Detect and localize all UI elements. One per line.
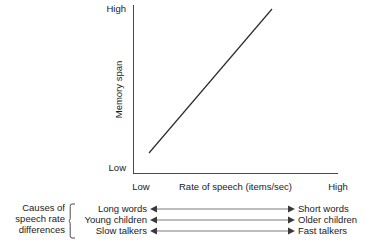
causes-row-2-right-label: Older children	[298, 214, 374, 225]
causes-row-3-left-label: Slow talkers	[74, 225, 147, 236]
causes-row-1-left-label: Long words	[74, 203, 147, 214]
figure-container: High Low Memory span Low Rate of speech …	[0, 0, 374, 247]
trend-line	[149, 9, 272, 153]
x-axis-low-tick-label: Low	[127, 181, 155, 192]
causes-row-2-left-label: Young children	[74, 214, 147, 225]
x-axis-title: Rate of speech (items/sec)	[163, 181, 308, 192]
trend-line-graphic	[0, 0, 374, 180]
causes-row-1-right-label: Short words	[298, 203, 374, 214]
x-axis-high-tick-label: High	[324, 181, 352, 192]
causes-row-3-right-label: Fast talkers	[298, 225, 374, 236]
causes-legend-block: Causes of speech rate differences Long w…	[0, 200, 374, 247]
